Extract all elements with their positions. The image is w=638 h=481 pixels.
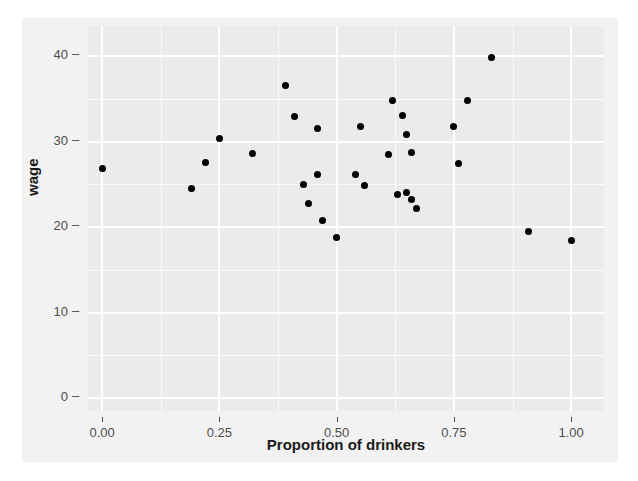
- grid-major-vertical: [453, 26, 455, 411]
- grid-major-horizontal: [88, 141, 604, 143]
- x-axis-tick-mark: [219, 417, 220, 422]
- grid-major-vertical: [336, 26, 338, 411]
- y-axis-tick-mark: –: [72, 46, 79, 61]
- data-point: [408, 149, 415, 156]
- y-axis-title: wage: [24, 158, 41, 196]
- grid-minor-vertical: [161, 26, 162, 411]
- grid-major-horizontal: [88, 397, 604, 399]
- data-point: [314, 171, 321, 178]
- grid-minor-horizontal: [88, 270, 604, 271]
- data-point: [408, 196, 415, 203]
- x-axis-tick-label: 0.00: [72, 425, 132, 440]
- data-point: [305, 200, 312, 207]
- grid-minor-horizontal: [88, 355, 604, 356]
- data-point: [455, 160, 462, 167]
- grid-major-vertical: [570, 26, 572, 411]
- data-point: [314, 125, 321, 132]
- x-axis-tick-mark: [337, 417, 338, 422]
- data-point: [291, 113, 298, 120]
- data-point: [568, 237, 575, 244]
- data-point: [333, 234, 340, 241]
- data-point: [319, 217, 326, 224]
- y-axis-tick-mark: –: [72, 132, 79, 147]
- grid-major-vertical: [218, 26, 220, 411]
- grid-minor-horizontal: [88, 99, 604, 100]
- data-point: [361, 182, 368, 189]
- y-axis-tick-label: 0: [32, 389, 68, 404]
- data-point: [216, 135, 223, 142]
- data-point: [464, 97, 471, 104]
- x-axis-tick-label: 0.50: [307, 425, 367, 440]
- x-axis-tick-mark: [454, 417, 455, 422]
- x-axis-tick-label: 1.00: [541, 425, 601, 440]
- data-point: [399, 112, 406, 119]
- data-point: [525, 228, 532, 235]
- data-point: [188, 185, 195, 192]
- scatter-plot-figure: wage Proportion of drinkers 0–10–20–30–4…: [0, 0, 638, 481]
- grid-major-vertical: [101, 26, 103, 411]
- data-point: [450, 123, 457, 130]
- grid-major-horizontal: [88, 55, 604, 57]
- x-axis-tick-mark: [571, 417, 572, 422]
- data-point: [488, 54, 495, 61]
- data-point: [99, 165, 106, 172]
- grid-minor-vertical: [513, 26, 514, 411]
- data-point: [282, 82, 289, 89]
- data-point: [394, 191, 401, 198]
- grid-minor-vertical: [278, 26, 279, 411]
- y-axis-tick-label: 20: [32, 218, 68, 233]
- data-point: [357, 123, 364, 130]
- y-axis-tick-label: 10: [32, 304, 68, 319]
- x-axis-tick-label: 0.75: [424, 425, 484, 440]
- data-point: [385, 151, 392, 158]
- grid-minor-vertical: [395, 26, 396, 411]
- data-point: [249, 150, 256, 157]
- grid-major-horizontal: [88, 312, 604, 314]
- x-axis-tick-mark: [102, 417, 103, 422]
- data-point: [300, 181, 307, 188]
- data-point: [403, 131, 410, 138]
- y-axis-tick-mark: –: [72, 303, 79, 318]
- data-point: [413, 205, 420, 212]
- plot-panel: [88, 26, 604, 411]
- grid-minor-horizontal: [88, 184, 604, 185]
- data-point: [202, 159, 209, 166]
- data-point: [352, 171, 359, 178]
- y-axis-tick-label: 30: [32, 133, 68, 148]
- y-axis-tick-mark: –: [72, 217, 79, 232]
- y-axis-tick-mark: –: [72, 388, 79, 403]
- x-axis-tick-label: 0.25: [189, 425, 249, 440]
- y-axis-tick-label: 40: [32, 47, 68, 62]
